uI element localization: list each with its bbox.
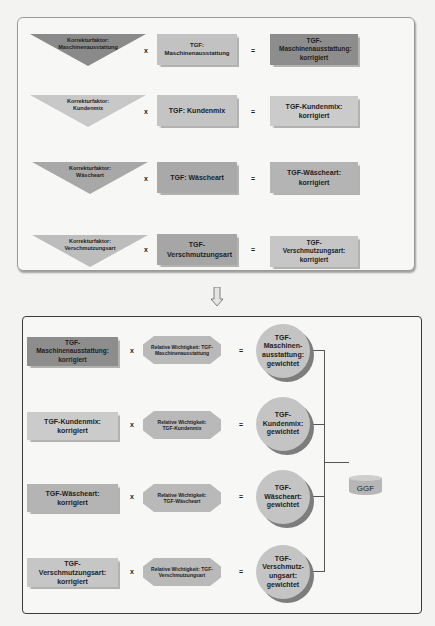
input-label: TGF: Wäscheart bbox=[170, 173, 224, 182]
input-label: TGF: Maschinenausstattung bbox=[162, 42, 232, 58]
multiply-operator: x bbox=[130, 421, 134, 428]
multiply-operator: x bbox=[130, 347, 134, 354]
equals-operator: = bbox=[251, 108, 255, 115]
result-label: TGF-Kundenmix: korrigiert bbox=[282, 102, 347, 120]
connector-to-ggf bbox=[324, 462, 349, 463]
input-box-maschinenausstattung: TGF: Maschinenausstattung bbox=[157, 34, 237, 65]
multiply-operator: x bbox=[130, 493, 134, 500]
input-box-maschinenausstattung-korrigiert: TGF-Maschinenausstattung: korrigiert bbox=[27, 337, 118, 366]
result-label: TGF-Maschinenausstattung: korrigiert bbox=[279, 37, 349, 62]
equals-operator: = bbox=[251, 47, 255, 54]
equals-operator: = bbox=[251, 175, 255, 182]
multiply-operator: x bbox=[144, 47, 148, 54]
input-label: TGF-Maschinenausstattung: korrigiert bbox=[34, 339, 112, 364]
circle-body: TGF-Verschmutz-ungsart: gewichtet bbox=[256, 545, 310, 599]
multiply-operator: x bbox=[144, 246, 148, 253]
input-box-waescheart-korrigiert: TGF-Wäscheart: korrigiert bbox=[27, 484, 118, 512]
input-label: TGF-Wäscheart: korrigiert bbox=[38, 489, 108, 507]
cylinder-top bbox=[349, 475, 382, 481]
multiply-operator: x bbox=[144, 175, 148, 182]
result-label: TGF-Verschmutz-ungsart: gewichtet bbox=[261, 555, 305, 590]
input-label: TGF-Kundenmix: korrigiert bbox=[38, 417, 108, 435]
input-label: TGF: Kundenmix bbox=[169, 106, 225, 115]
weight-label: Relative Wichtigkeit: TGF-Maschinenausst… bbox=[150, 344, 214, 357]
result-circle-waescheart: TGF-Wäscheart: gewichtet bbox=[256, 470, 314, 528]
multiply-operator: x bbox=[144, 108, 148, 115]
input-label: TGF-Verschmutzungsart bbox=[167, 240, 227, 258]
equals-operator: = bbox=[239, 421, 243, 428]
result-label: TGF-Wäscheart: korrigiert bbox=[282, 168, 347, 186]
result-label: TGF-Maschinen-ausstattung: gewichtet bbox=[262, 334, 304, 369]
result-label: TGF-Kundenmix: gewichtet bbox=[260, 411, 306, 437]
database-cylinder-icon: GGF bbox=[349, 475, 382, 497]
result-circle-kundenmix: TGF-Kundenmix: gewichtet bbox=[256, 397, 314, 455]
connector-trunk bbox=[324, 350, 325, 572]
input-box-kundenmix: TGF: Kundenmix bbox=[157, 95, 237, 126]
result-circle-verschmutzungsart: TGF-Verschmutz-ungsart: gewichtet bbox=[256, 545, 314, 603]
result-circle-maschinenausstattung: TGF-Maschinen-ausstattung: gewichtet bbox=[256, 324, 314, 382]
result-box-maschinenausstattung: TGF-Maschinenausstattung: korrigiert bbox=[270, 34, 358, 65]
circle-body: TGF-Wäscheart: gewichtet bbox=[256, 470, 310, 524]
result-box-kundenmix: TGF-Kundenmix: korrigiert bbox=[270, 96, 358, 126]
weight-label: Relative Wichtigkeit: TGF-Wäscheart bbox=[152, 492, 212, 505]
input-box-verschmutzungsart: TGF-Verschmutzungsart bbox=[157, 234, 237, 265]
input-box-kundenmix-korrigiert: TGF-Kundenmix: korrigiert bbox=[27, 412, 118, 440]
weight-label: Relative Wichtigkeit: TGF-Verschmutzungs… bbox=[146, 566, 218, 579]
circle-body: TGF-Maschinen-ausstattung: gewichtet bbox=[256, 324, 310, 378]
multiply-operator: x bbox=[130, 568, 134, 575]
equals-operator: = bbox=[239, 493, 243, 500]
ggf-label: GGF bbox=[357, 484, 374, 493]
weight-octagon-verschmutzungsart: Relative Wichtigkeit: TGF-Verschmutzungs… bbox=[143, 558, 221, 586]
weight-label: Relative Wichtigkeit: TGF-Kundenmix bbox=[152, 419, 212, 432]
input-label: TGF-Verschmutzungsart: korrigiert bbox=[33, 559, 113, 586]
equals-operator: = bbox=[239, 568, 243, 575]
result-label: TGF-Wäscheart: gewichtet bbox=[261, 484, 305, 510]
weight-octagon-kundenmix: Relative Wichtigkeit: TGF-Kundenmix bbox=[143, 411, 221, 439]
down-arrow-icon bbox=[210, 287, 224, 307]
circle-body: TGF-Kundenmix: gewichtet bbox=[256, 397, 310, 451]
result-box-waescheart: TGF-Wäscheart: korrigiert bbox=[270, 162, 358, 193]
result-box-verschmutzungsart: TGF-Verschmutzungsart: korrigiert bbox=[270, 236, 358, 267]
result-label: TGF-Verschmutzungsart: korrigiert bbox=[279, 239, 349, 264]
input-box-verschmutzungsart-korrigiert: TGF-Verschmutzungsart: korrigiert bbox=[27, 558, 118, 587]
equals-operator: = bbox=[239, 347, 243, 354]
weight-octagon-maschinenausstattung: Relative Wichtigkeit: TGF-Maschinenausst… bbox=[143, 336, 221, 364]
equals-operator: = bbox=[251, 246, 255, 253]
input-box-waescheart: TGF: Wäscheart bbox=[157, 162, 237, 193]
weight-octagon-waescheart: Relative Wichtigkeit: TGF-Wäscheart bbox=[143, 484, 221, 512]
